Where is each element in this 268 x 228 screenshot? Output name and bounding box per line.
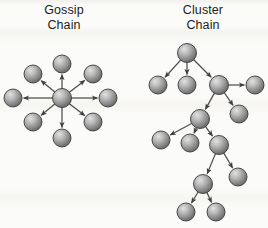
node-g-sw (24, 113, 42, 131)
node-g-s (53, 129, 71, 147)
edge-hub-to-g-ne (69, 80, 85, 92)
node-c-c (210, 76, 229, 95)
node-c-j (194, 175, 213, 194)
edge-hub-to-g-se (69, 103, 85, 115)
node-g-n (53, 55, 71, 73)
node-c-g (152, 131, 170, 149)
node-c-e (191, 110, 210, 129)
node-c-h (181, 134, 199, 152)
node-c-a (149, 76, 167, 94)
node-g-ne (84, 65, 102, 83)
edge-c-root-to-c-a (165, 59, 181, 77)
gossip-chain-nodes (4, 55, 117, 147)
edge-c-j-to-c-l (191, 191, 198, 203)
edge-c-c-to-c-f (224, 92, 233, 105)
node-hub (53, 89, 72, 108)
node-c-l (177, 203, 195, 221)
node-c-k (229, 168, 247, 186)
node-c-i (210, 136, 229, 155)
edge-hub-to-g-nw (41, 81, 55, 93)
node-c-d (246, 76, 264, 94)
node-g-w (4, 89, 22, 107)
node-g-e (99, 89, 117, 107)
edge-hub-to-g-sw (41, 103, 55, 115)
figure-canvas: Gossip Chain Cluster Chain (0, 0, 268, 228)
edge-c-e-to-c-g (170, 123, 192, 135)
edge-c-i-to-c-k (223, 152, 232, 168)
node-c-root (178, 44, 197, 63)
edge-c-j-to-c-m (207, 192, 212, 203)
node-c-b (178, 76, 196, 94)
node-c-f (230, 105, 248, 123)
network-diagrams (0, 0, 268, 228)
edge-c-i-to-c-j (207, 153, 216, 174)
node-g-se (84, 113, 102, 131)
node-c-m (207, 203, 225, 221)
edge-c-e-to-c-i (205, 126, 212, 136)
node-g-nw (24, 65, 42, 83)
cluster-chain-nodes (149, 44, 264, 222)
edge-c-root-to-c-c (193, 59, 211, 77)
edge-c-c-to-c-e (205, 92, 214, 109)
